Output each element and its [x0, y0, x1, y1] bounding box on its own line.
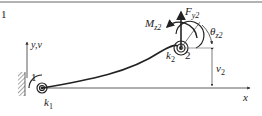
moment-arrow-icon	[167, 22, 197, 38]
spring-k1-label: k1	[44, 97, 53, 108]
displacement-label: v2	[216, 63, 225, 74]
corner-label: 1	[1, 9, 7, 20]
rotation-label: θz2	[210, 26, 223, 37]
moment-label: Mz2	[145, 18, 161, 29]
node-1-label: 1	[31, 72, 37, 83]
fixed-wall	[18, 72, 25, 96]
y-axis-label: y,v	[31, 40, 42, 50]
beam-diagram	[0, 0, 262, 116]
deflected-beam	[42, 45, 178, 88]
force-label: Fy2	[185, 6, 199, 17]
spring-k2-label: k2	[166, 50, 175, 61]
node-2-label: 2	[185, 50, 191, 61]
x-axis-label: x	[243, 92, 248, 103]
